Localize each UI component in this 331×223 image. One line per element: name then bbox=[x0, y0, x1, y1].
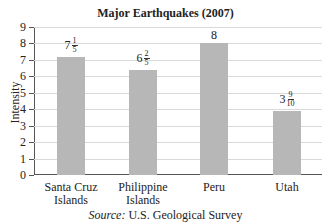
bar bbox=[200, 43, 228, 175]
x-category-label: Peru bbox=[174, 181, 254, 194]
y-tick-label: 3 bbox=[16, 120, 26, 132]
x-category-line: Islands bbox=[31, 194, 111, 207]
x-category-label: Utah bbox=[247, 181, 327, 194]
bar bbox=[129, 70, 157, 175]
y-tick bbox=[29, 43, 34, 44]
y-tick bbox=[29, 175, 34, 176]
y-tick-label: 9 bbox=[16, 21, 26, 33]
y-tick bbox=[29, 76, 34, 77]
y-tick-label: 7 bbox=[16, 54, 26, 66]
y-tick bbox=[29, 126, 34, 127]
x-category-label: Santa CruzIslands bbox=[31, 181, 111, 207]
source-note: Source: U.S. Geological Survey bbox=[0, 208, 331, 223]
y-tick-label: 2 bbox=[16, 136, 26, 148]
y-tick bbox=[29, 109, 34, 110]
value-fraction: 15 bbox=[72, 37, 78, 54]
value-whole: 3 bbox=[280, 93, 286, 105]
plot-area: 012345678971562583910 bbox=[34, 27, 322, 175]
y-tick bbox=[29, 93, 34, 94]
x-category-line: Islands bbox=[103, 194, 183, 207]
bar bbox=[57, 57, 85, 175]
y-tick bbox=[29, 60, 34, 61]
x-category-line: Utah bbox=[247, 181, 327, 194]
bar-value-label: 8 bbox=[189, 29, 239, 41]
bar bbox=[273, 111, 301, 175]
value-whole: 8 bbox=[211, 29, 217, 41]
y-tick-label: 4 bbox=[16, 103, 26, 115]
bar-value-label: 625 bbox=[118, 50, 168, 67]
y-tick-label: 1 bbox=[16, 153, 26, 165]
x-category-line: Peru bbox=[174, 181, 254, 194]
source-text: U.S. Geological Survey bbox=[125, 208, 242, 222]
y-tick bbox=[29, 159, 34, 160]
gridline bbox=[34, 27, 322, 28]
y-tick bbox=[29, 142, 34, 143]
value-fraction: 25 bbox=[144, 50, 150, 67]
y-axis-line bbox=[34, 27, 35, 175]
value-whole: 7 bbox=[65, 39, 71, 51]
chart-title: Major Earthquakes (2007) bbox=[0, 6, 331, 21]
y-tick-label: 0 bbox=[16, 169, 26, 181]
value-fraction: 910 bbox=[287, 91, 295, 108]
source-prefix: Source: bbox=[89, 208, 126, 222]
y-tick-label: 8 bbox=[16, 37, 26, 49]
y-tick-label: 5 bbox=[16, 87, 26, 99]
x-category-label: PhilippineIslands bbox=[103, 181, 183, 207]
y-tick-label: 6 bbox=[16, 70, 26, 82]
bar-value-label: 3910 bbox=[262, 91, 312, 108]
y-tick bbox=[29, 27, 34, 28]
value-whole: 6 bbox=[137, 52, 143, 64]
bar-value-label: 715 bbox=[46, 37, 96, 54]
